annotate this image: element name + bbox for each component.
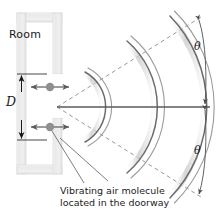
molecule-dot-upper [46, 83, 54, 91]
diagram-canvas [0, 0, 217, 214]
room-wall-left [17, 13, 26, 174]
room-wall [17, 13, 62, 174]
molecule-dot-lower [46, 123, 54, 131]
diffraction-diagram: Room D θ θ Vibrating air molecule locate… [0, 0, 217, 214]
leader-line-doorway [60, 138, 108, 181]
room-wall-right-upper [53, 13, 62, 74]
doorway-opening [53, 74, 62, 118]
